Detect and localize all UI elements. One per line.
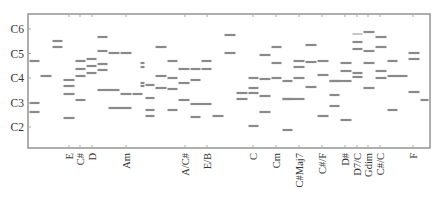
y-tick-label: C2 bbox=[11, 121, 25, 133]
chord-note-chart: C6C5C4C3C2 EC#DAmA/C#E/BCCmC#Maj7C#/FD#D… bbox=[0, 0, 442, 198]
x-axis-ticks: EC#DAmA/C#E/BCCmC#Maj7C#/FD#D7/CGdimC#/C… bbox=[64, 14, 419, 187]
y-tick-label: C3 bbox=[11, 97, 25, 109]
y-tick-label: C6 bbox=[11, 23, 25, 35]
y-tick-label: C5 bbox=[11, 48, 25, 60]
x-tick-label: Am bbox=[121, 153, 132, 169]
x-tick-label: D bbox=[87, 153, 98, 161]
x-tick-label: F bbox=[408, 153, 419, 159]
x-tick-label: E/B bbox=[202, 153, 213, 169]
x-tick-label: D7/C bbox=[352, 153, 363, 176]
x-tick-label: C#/F bbox=[317, 153, 328, 174]
note-segments bbox=[30, 32, 429, 130]
x-tick-label: Gdim bbox=[363, 153, 374, 177]
x-tick-label: Cm bbox=[271, 153, 282, 168]
x-tick-label: C#/C bbox=[375, 153, 386, 175]
x-tick-label: C bbox=[248, 153, 259, 160]
y-tick-label: C4 bbox=[11, 72, 25, 84]
x-tick-label: C#Maj7 bbox=[294, 153, 305, 187]
x-tick-label: C# bbox=[75, 152, 86, 165]
x-tick-label: E bbox=[64, 153, 75, 159]
x-tick-label: D# bbox=[340, 152, 351, 166]
x-tick-label: A/C# bbox=[180, 152, 191, 176]
